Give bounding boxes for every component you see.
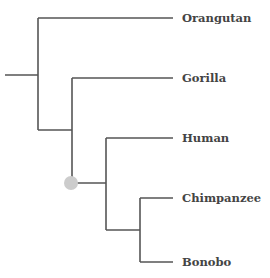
tree-diagram [0, 0, 270, 278]
highlighted-node-marker [64, 176, 78, 190]
leaf-label-human: Human [182, 131, 229, 145]
leaf-label-gorilla: Gorilla [182, 71, 226, 85]
leaf-label-orangutan: Orangutan [182, 11, 251, 25]
leaf-label-chimpanzee: Chimpanzee [182, 191, 261, 205]
leaf-label-bonobo: Bonobo [182, 255, 231, 269]
